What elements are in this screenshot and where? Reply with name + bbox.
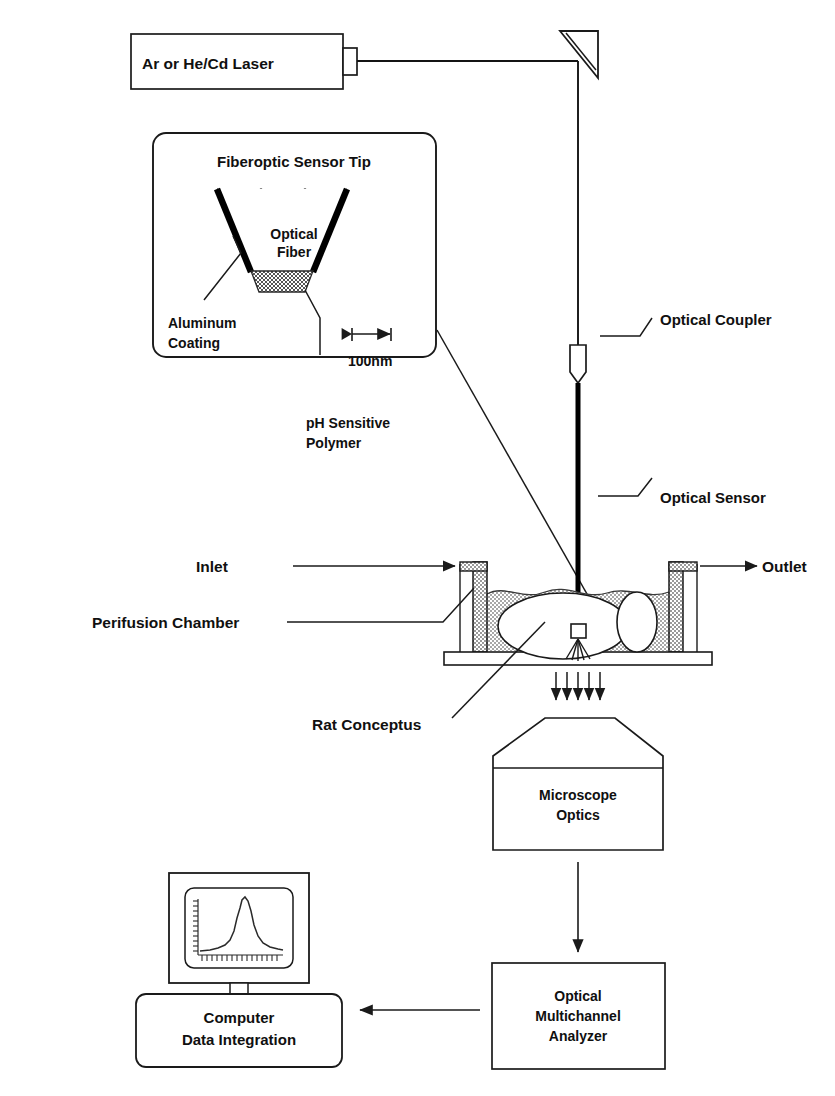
optical-multichannel-analyzer: Optical Multichannel Analyzer (492, 963, 665, 1069)
laser-aperture (343, 48, 357, 75)
ph-polymer-label-1: pH Sensitive (306, 415, 390, 431)
laser-source: Ar or He/Cd Laser (131, 34, 357, 89)
perifusion-chamber-label: Perifusion Chamber (92, 614, 239, 631)
chamber-wall-right (669, 562, 683, 652)
outlet-label: Outlet (762, 558, 807, 575)
optical-sensor-leader (598, 478, 652, 496)
scale-bar-label: 100nm (348, 353, 392, 369)
inlet-label: Inlet (196, 558, 228, 575)
computer-label-2: Data Integration (182, 1031, 296, 1048)
microscope-label-1: Microscope (539, 787, 617, 803)
optical-coupler-label: Optical Coupler (660, 311, 772, 328)
rat-conceptus-body (498, 593, 628, 659)
computer-workstation: Computer Data Integration (136, 873, 342, 1067)
inset-title: Fiberoptic Sensor Tip (217, 153, 371, 170)
optical-coupler-leader (600, 318, 652, 336)
microscope-body (493, 718, 663, 850)
ph-polymer-plug (251, 271, 313, 292)
analyzer-label-3: Analyzer (549, 1028, 608, 1044)
rat-conceptus-yolk-sac (617, 592, 657, 652)
aluminum-coating-label-2: Coating (168, 335, 220, 351)
mirror-prism (560, 31, 598, 78)
collected-light-arrows (556, 672, 600, 700)
perifusion-chamber-leader (287, 588, 474, 622)
microscope-label-2: Optics (556, 807, 600, 823)
coupler-body (570, 345, 586, 383)
magnification-leader (437, 330, 612, 638)
laser-label: Ar or He/Cd Laser (142, 55, 274, 72)
optical-coupler: Optical Coupler (570, 311, 772, 383)
inlet-port (460, 562, 487, 571)
monitor-neck (230, 983, 248, 994)
computer-label-1: Computer (204, 1009, 275, 1026)
microscope-optics: Microscope Optics (493, 718, 663, 850)
chamber-wall-left (473, 562, 487, 652)
optical-fiber-label-2: Fiber (277, 244, 312, 260)
aluminum-coating-label-1: Aluminum (168, 315, 236, 331)
mirror (560, 31, 598, 78)
sensor-tip-marker (571, 624, 586, 638)
optical-sensor-label: Optical Sensor (660, 489, 766, 506)
outlet-port (669, 562, 697, 571)
rat-conceptus-label: Rat Conceptus (312, 716, 421, 733)
analyzer-label-2: Multichannel (535, 1008, 621, 1024)
apparatus-diagram: Ar or He/Cd Laser Fiberoptic Sensor Tip … (0, 0, 835, 1096)
optical-fiber-label-1: Optical (270, 226, 317, 242)
perifusion-chamber: Inlet Outlet Perifusion Chamber Rat Conc… (92, 558, 807, 733)
analyzer-label-1: Optical (554, 988, 601, 1004)
ph-polymer-label-2: Polymer (306, 435, 362, 451)
